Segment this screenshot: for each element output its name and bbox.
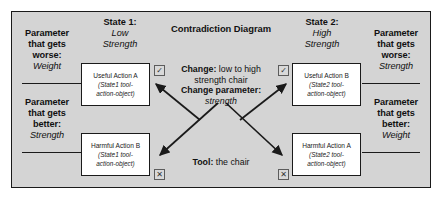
parameter-top-right: Parameter that gets worse: Strength xyxy=(362,28,430,71)
tool-value: the chair xyxy=(213,157,249,167)
parameter-bottom-left-line2: that gets xyxy=(14,108,80,119)
action-harmful-left-title: Harmful Action B xyxy=(91,141,140,150)
checkbox-cross-icon-harmful-left[interactable]: ✕ xyxy=(154,169,165,180)
state-1-value-line2: Strength xyxy=(84,39,156,50)
parameter-bottom-right-line3: better: xyxy=(362,119,430,130)
state-2-header: State 2: High Strength xyxy=(286,17,358,50)
change-label: Change: xyxy=(181,64,216,74)
action-harmful-right-sub-line2: action-object) xyxy=(307,159,345,168)
change-line: Change: low to high xyxy=(163,64,279,75)
state-1-label: State 1: xyxy=(84,17,156,28)
action-useful-left-sub-line1: (State1 tool- xyxy=(98,80,133,89)
state-2-value-line2: Strength xyxy=(286,39,358,50)
checkbox-checked-icon-useful-left[interactable]: ✓ xyxy=(154,65,165,76)
parameter-bottom-left: Parameter that gets better: Strength xyxy=(14,97,80,140)
connector-line-bottom-right xyxy=(362,152,420,153)
parameter-top-right-value: Strength xyxy=(362,61,430,72)
parameter-bottom-left-line1: Parameter xyxy=(14,97,80,108)
parameter-top-right-line3: worse: xyxy=(362,50,430,61)
action-useful-left-title: Useful Action A xyxy=(93,71,137,80)
state-2-value-line1: High xyxy=(286,28,358,39)
parameter-top-left: Parameter that gets worse: Weight xyxy=(14,28,80,71)
state-1-value-line1: Low xyxy=(84,28,156,39)
parameter-top-left-line2: that gets xyxy=(14,39,80,50)
parameter-bottom-right-line2: that gets xyxy=(362,108,430,119)
action-harmful-right-sub-line1: (State2 tool- xyxy=(309,150,344,159)
action-box-harmful-left[interactable]: Harmful Action B (State1 tool- action-ob… xyxy=(81,133,150,176)
action-useful-right-sub-line2: action-object) xyxy=(307,89,345,98)
action-box-useful-left[interactable]: Useful Action A (State1 tool- action-obj… xyxy=(81,63,150,106)
contradiction-diagram: State 1: Low Strength Contradiction Diag… xyxy=(0,0,444,211)
connector-line-top-right xyxy=(362,83,420,84)
state-1-header: State 1: Low Strength xyxy=(84,17,156,50)
connector-line-bottom-left xyxy=(22,152,81,153)
checkbox-checked-icon-useful-right[interactable]: ✓ xyxy=(278,65,289,76)
action-useful-left-sub-line2: action-object) xyxy=(96,89,134,98)
page-title: Contradiction Diagram xyxy=(162,23,280,34)
action-useful-right-title: Useful Action B xyxy=(304,71,349,80)
action-useful-right-sub-line1: (State2 tool- xyxy=(309,80,344,89)
parameter-top-right-line1: Parameter xyxy=(362,28,430,39)
parameter-bottom-left-line3: better: xyxy=(14,119,80,130)
parameter-top-left-line1: Parameter xyxy=(14,28,80,39)
change-value-line1: low to high xyxy=(216,64,261,74)
action-harmful-left-sub-line1: (State1 tool- xyxy=(98,150,133,159)
parameter-bottom-left-value: Strength xyxy=(14,130,80,141)
action-harmful-right-title: Harmful Action A xyxy=(302,141,351,150)
state-2-label: State 2: xyxy=(286,17,358,28)
change-parameter-value: strength xyxy=(205,96,237,106)
parameter-bottom-right-value: Weight xyxy=(362,130,430,141)
parameter-top-right-line2: that gets xyxy=(362,39,430,50)
parameter-bottom-right-line1: Parameter xyxy=(362,97,430,108)
change-parameter-line: Change parameter: xyxy=(163,85,279,96)
tool-block: Tool: the chair xyxy=(163,157,279,167)
action-box-harmful-right[interactable]: Harmful Action A (State2 tool- action-ob… xyxy=(292,133,361,176)
action-harmful-left-sub-line2: action-object) xyxy=(96,159,134,168)
checkbox-cross-icon-harmful-right[interactable]: ✕ xyxy=(278,169,289,180)
center-change-block: Change: low to high strength chair Chang… xyxy=(163,64,279,107)
change-parameter-label: Change parameter: xyxy=(181,85,261,95)
parameter-top-left-line3: worse: xyxy=(14,50,80,61)
connector-line-top-left xyxy=(22,83,81,84)
parameter-top-left-value: Weight xyxy=(14,61,80,72)
tool-label: Tool: xyxy=(192,157,213,167)
action-box-useful-right[interactable]: Useful Action B (State2 tool- action-obj… xyxy=(292,63,361,106)
change-value-line2: strength chair xyxy=(163,75,279,86)
parameter-bottom-right: Parameter that gets better: Weight xyxy=(362,97,430,140)
